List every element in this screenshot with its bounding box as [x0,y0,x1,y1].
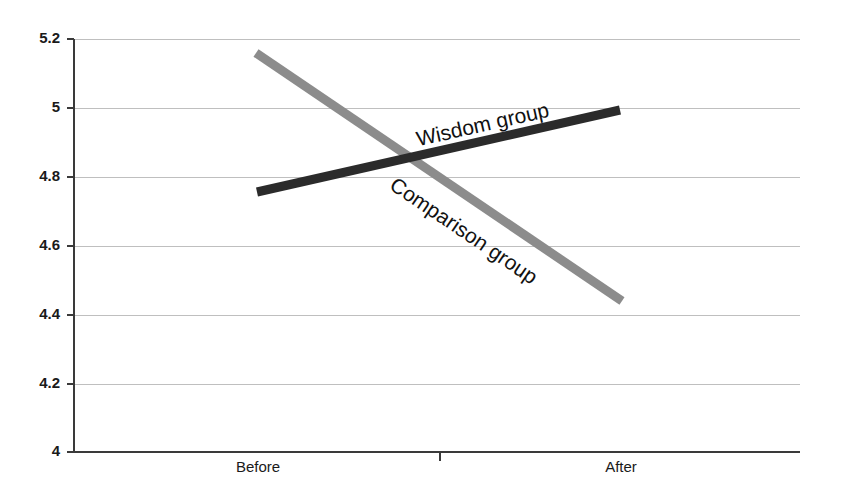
y-axis-label-5: 5 [52,98,60,115]
y-axis-label-4.2: 4.2 [39,374,60,391]
y-axis-label-4: 4 [52,442,61,459]
y-axis-label-5.2: 5.2 [39,29,60,46]
x-axis-labels: Before After [236,458,637,475]
line-chart: 5.2 5 4.8 4.6 4.4 4.2 4 Wisdom group Com… [0,0,843,494]
y-axis-label-4.6: 4.6 [39,236,60,253]
y-axis-labels: 5.2 5 4.8 4.6 4.4 4.2 4 [39,29,61,459]
y-axis-label-4.8: 4.8 [39,167,60,184]
x-axis-label-after: After [605,458,637,475]
x-axis-label-before: Before [236,458,280,475]
y-axis-tickmarks [67,39,74,452]
chart-container: 5.2 5 4.8 4.6 4.4 4.2 4 Wisdom group Com… [0,0,843,494]
y-axis-label-4.4: 4.4 [39,305,61,322]
